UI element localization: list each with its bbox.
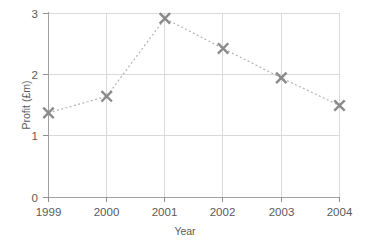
y-axis-tick-marks (43, 14, 48, 198)
x-tick-label-2004: 2004 (327, 206, 353, 218)
x-tick-label-2000: 2000 (94, 206, 120, 218)
x-tick-label-1999: 1999 (36, 206, 62, 218)
x-axis-tick-labels: 1999 2000 2001 2002 2003 2004 (36, 206, 353, 218)
x-tick-label-2002: 2002 (210, 206, 236, 218)
y-tick-label-3: 3 (32, 8, 38, 20)
x-axis-title: Year (174, 225, 196, 237)
x-tick-label-2003: 2003 (269, 206, 295, 218)
chart-container: 3 2 1 0 1999 2000 2001 2002 2003 2004 Ye… (0, 0, 371, 242)
y-axis-tick-labels: 3 2 1 0 (32, 8, 38, 204)
plot-area-background (48, 13, 340, 197)
y-axis-title: Profit (£m) (20, 80, 32, 129)
y-tick-label-2: 2 (32, 69, 38, 81)
profit-line-chart: 3 2 1 0 1999 2000 2001 2002 2003 2004 Ye… (0, 0, 371, 242)
y-tick-label-0: 0 (32, 192, 38, 204)
y-tick-label-1: 1 (32, 130, 38, 142)
x-tick-label-2001: 2001 (152, 206, 178, 218)
